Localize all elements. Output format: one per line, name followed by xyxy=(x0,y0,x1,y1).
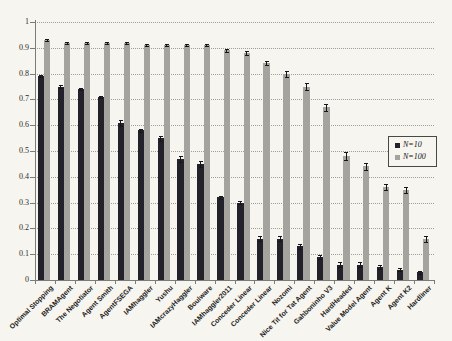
bar-N100-3 xyxy=(104,43,110,280)
error-bar-cap xyxy=(65,44,69,45)
error-bar-cap xyxy=(364,170,368,171)
error-bar-cap xyxy=(338,262,342,263)
error-bar-cap xyxy=(424,236,428,237)
error-bar-cap xyxy=(398,271,402,272)
error-bar-cap xyxy=(265,61,269,62)
y-tick-label: 0.5 xyxy=(3,147,29,155)
error-bar-cap xyxy=(145,46,149,47)
error-bar-cap xyxy=(59,85,63,86)
error-bar-cap xyxy=(278,241,282,242)
bar-N100-17 xyxy=(383,187,389,280)
x-tick xyxy=(115,281,116,284)
error-bar-cap xyxy=(165,46,169,47)
error-bar-cap xyxy=(278,236,282,237)
error-bar-cap xyxy=(285,71,289,72)
error-bar-cap xyxy=(119,126,123,127)
error-bar-cap xyxy=(384,184,388,185)
error-bar-cap xyxy=(305,83,309,84)
legend-item-n100: N=100 xyxy=(395,153,436,161)
error-bar-cap xyxy=(79,88,83,89)
legend: N=10 N=100 xyxy=(388,136,437,167)
x-tick xyxy=(354,281,355,284)
error-bar-cap xyxy=(165,44,169,45)
error-bar-cap xyxy=(265,65,269,66)
error-bar-cap xyxy=(344,160,348,161)
error-bar-cap xyxy=(378,265,382,266)
y-tick-label: 0.9 xyxy=(3,44,29,52)
bar-N100-4 xyxy=(124,43,130,280)
error-bar-cap xyxy=(219,199,223,200)
error-bar-cap xyxy=(99,96,103,97)
error-bar-cap xyxy=(398,268,402,269)
error-bar-cap xyxy=(318,255,322,256)
error-bar-cap xyxy=(364,163,368,164)
error-bar-cap xyxy=(378,269,382,270)
bar-N100-9 xyxy=(224,50,230,280)
error-bar-cap xyxy=(404,187,408,188)
error-bar-cap xyxy=(179,162,183,163)
error-bar-cap xyxy=(139,132,143,133)
error-bar-cap xyxy=(39,75,43,76)
bar-N100-13 xyxy=(303,87,309,281)
error-bar-cap xyxy=(85,42,89,43)
bar-N100-18 xyxy=(403,190,409,280)
error-bar-cap xyxy=(119,120,123,121)
error-bar-cap xyxy=(79,90,83,91)
legend-label-n100: N=100 xyxy=(403,153,426,161)
x-tick xyxy=(135,281,136,284)
x-tick xyxy=(95,281,96,284)
error-bar-cap xyxy=(225,49,229,50)
x-tick xyxy=(414,281,415,284)
error-bar-cap xyxy=(125,42,129,43)
error-bar-cap xyxy=(45,41,49,42)
y-tick-label: 0.3 xyxy=(3,199,29,207)
error-bar-cap xyxy=(305,90,309,91)
y-tick-label: 0.2 xyxy=(3,224,29,232)
x-tick xyxy=(195,281,196,284)
bar-N100-2 xyxy=(84,43,90,280)
error-bar-cap xyxy=(185,46,189,47)
error-bar-cap xyxy=(185,44,189,45)
bar-N100-7 xyxy=(184,45,190,280)
x-tick xyxy=(215,281,216,284)
error-bar-cap xyxy=(159,141,163,142)
error-bar-cap xyxy=(324,104,328,105)
error-bar-cap xyxy=(205,46,209,47)
error-bar-cap xyxy=(145,44,149,45)
x-tick xyxy=(75,281,76,284)
legend-marker-n100 xyxy=(395,155,400,160)
y-tick-label: 1 xyxy=(3,18,29,26)
bar-N100-15 xyxy=(343,156,349,280)
error-bar-cap xyxy=(85,44,89,45)
error-bar-cap xyxy=(59,88,63,89)
x-tick xyxy=(175,281,176,284)
error-bar-cap xyxy=(45,39,49,40)
y-tick-label: 0 xyxy=(3,276,29,284)
y-tick-label: 0.4 xyxy=(3,173,29,181)
error-bar-cap xyxy=(105,44,109,45)
legend-label-n10: N=10 xyxy=(403,141,422,149)
legend-marker-n10 xyxy=(395,143,400,148)
error-bar-cap xyxy=(384,190,388,191)
x-tick xyxy=(394,281,395,284)
error-bar-cap xyxy=(358,267,362,268)
error-bar xyxy=(346,152,347,160)
x-tick xyxy=(314,281,315,284)
error-bar-cap xyxy=(318,259,322,260)
error-bar-cap xyxy=(205,44,209,45)
bar-N100-0 xyxy=(44,40,50,280)
error-bar-cap xyxy=(105,42,109,43)
bar-N100-5 xyxy=(144,45,150,280)
bar-N100-12 xyxy=(283,74,289,280)
error-bar-cap xyxy=(245,55,249,56)
error-bar-cap xyxy=(418,274,422,275)
error-bar-cap xyxy=(125,44,129,45)
error-bar-cap xyxy=(344,152,348,153)
bar-N100-6 xyxy=(164,45,170,280)
error-bar-cap xyxy=(258,241,262,242)
x-tick xyxy=(274,281,275,284)
error-bar-cap xyxy=(99,98,103,99)
error-bar-cap xyxy=(159,136,163,137)
error-bar-cap xyxy=(285,77,289,78)
chart: 00.10.20.30.40.50.60.70.80.91 Optimal St… xyxy=(0,0,452,341)
